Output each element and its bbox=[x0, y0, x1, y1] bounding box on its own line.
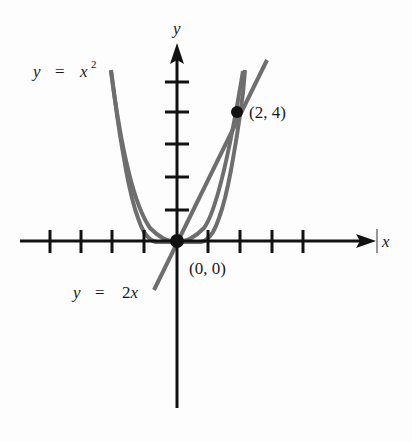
svg-text:y: y bbox=[71, 283, 81, 302]
x-axis-label: x bbox=[381, 232, 390, 251]
intersection-point bbox=[231, 106, 243, 118]
parabola-equation-label: y = x 2 bbox=[31, 58, 97, 81]
svg-text:2x: 2x bbox=[122, 283, 139, 302]
line-equation-label: y = 2x bbox=[71, 283, 139, 302]
svg-text:2: 2 bbox=[91, 58, 97, 70]
line-curve bbox=[154, 60, 267, 290]
y-axis-label: y bbox=[171, 19, 181, 38]
intersection-label: (2, 4) bbox=[249, 103, 286, 122]
graph-figure: y x (2, 4) (0, 0) y = x 2 y = 2x bbox=[0, 0, 412, 442]
origin-point bbox=[170, 234, 184, 248]
svg-text:y: y bbox=[31, 62, 41, 81]
svg-text:x: x bbox=[79, 62, 88, 81]
svg-text:=: = bbox=[95, 283, 105, 302]
svg-text:=: = bbox=[55, 62, 65, 81]
origin-label: (0, 0) bbox=[189, 259, 226, 278]
